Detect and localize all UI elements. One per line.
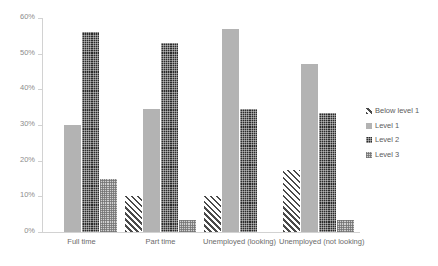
legend-label: Below level 1 — [375, 107, 419, 115]
bar — [125, 196, 142, 232]
legend-swatch-icon — [366, 152, 372, 158]
bar-group — [279, 18, 358, 232]
y-axis-tick-label: 0% — [24, 227, 35, 235]
bar — [319, 113, 336, 232]
bar — [240, 109, 257, 232]
legend-item[interactable]: Level 3 — [366, 151, 419, 159]
bar — [100, 179, 117, 233]
legend-item[interactable]: Level 1 — [366, 122, 419, 130]
x-axis-category-label: Part time — [121, 238, 200, 246]
y-axis-tick-label: 20% — [20, 156, 35, 164]
y-axis-tick: 0% — [42, 232, 358, 233]
x-axis-category-label: Unemployed (not looking) — [279, 238, 358, 246]
legend-label: Level 2 — [375, 136, 399, 144]
legend-swatch-icon — [366, 108, 372, 114]
bar — [283, 170, 300, 232]
bar — [82, 32, 99, 232]
legend-swatch-icon — [366, 123, 372, 129]
y-axis-tick-label: 50% — [20, 49, 35, 57]
y-axis-tick-label: 40% — [20, 84, 35, 92]
bar — [204, 196, 221, 232]
y-axis-tick-mark — [38, 232, 42, 233]
legend-swatch-icon — [366, 137, 372, 143]
bar — [337, 220, 354, 232]
bar — [301, 64, 318, 232]
y-axis-tick-label: 60% — [20, 13, 35, 21]
y-axis-tick-label: 30% — [20, 120, 35, 128]
bar — [222, 29, 239, 232]
legend-label: Level 3 — [375, 151, 399, 159]
x-axis-category-label: Full time — [42, 238, 121, 246]
bar-chart: 0%10%20%30%40%50%60% Full timePart timeU… — [0, 0, 438, 266]
plot-area: 0%10%20%30%40%50%60% — [42, 18, 358, 232]
bar — [64, 125, 81, 232]
bar-group — [42, 18, 121, 232]
y-axis-tick-label: 10% — [20, 191, 35, 199]
legend-item[interactable]: Below level 1 — [366, 107, 419, 115]
chart-legend: Below level 1Level 1Level 2Level 3 — [366, 107, 419, 159]
legend-label: Level 1 — [375, 122, 399, 130]
bar-group — [121, 18, 200, 232]
bar — [179, 220, 196, 232]
legend-item[interactable]: Level 2 — [366, 136, 419, 144]
bar — [143, 109, 160, 232]
bar — [161, 43, 178, 232]
x-axis-category-label: Unemployed (looking) — [200, 238, 279, 246]
bar-group — [200, 18, 279, 232]
